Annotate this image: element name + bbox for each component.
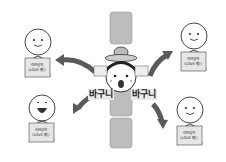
- box-text-line: (LOVE 箱): [26, 68, 48, 73]
- basket-label-left: 바구니: [88, 89, 114, 100]
- box-text-top-left: 러브상자 (LOVE 箱): [26, 63, 48, 72]
- basket-label-right: 바구니: [131, 89, 157, 100]
- box-text-line: (LOVE 箱): [178, 136, 200, 141]
- center-child: [94, 47, 148, 92]
- arrow-top-left: [55, 54, 95, 72]
- box-text-top-right: 러브상자 (LOVE 箱): [182, 57, 204, 66]
- arrow-bottom-right: [153, 104, 168, 129]
- box-text-line: (LOVE 箱): [182, 62, 204, 67]
- box-text-bottom-left: 러브상자 (LOVE 箱): [30, 128, 52, 137]
- box-text-bottom-right: 러브상자 (LOVE 箱): [178, 131, 200, 140]
- arrow-top-right: [150, 51, 173, 76]
- box-text-line: (LOVE 箱): [30, 133, 52, 138]
